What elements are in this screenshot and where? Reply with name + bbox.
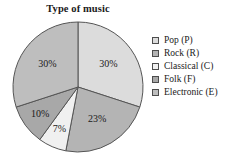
legend-item-label: Electronic (E) xyxy=(164,87,218,98)
pie-slice-value: 7% xyxy=(53,123,66,134)
pie-svg: 30%23%7%10%30% xyxy=(0,0,152,163)
pie-chart-figure: Type of music 30%23%7%10%30% Pop (P)Rock… xyxy=(0,0,234,163)
legend-item[interactable]: Classical (C) xyxy=(152,60,234,73)
legend-swatch-icon xyxy=(152,50,159,57)
pie-slice-value: 30% xyxy=(38,58,56,69)
legend-item-label: Rock (R) xyxy=(164,48,199,59)
legend-swatch-icon xyxy=(152,89,159,96)
pie-slice-value: 30% xyxy=(99,58,117,69)
legend-swatch-icon xyxy=(152,76,159,83)
legend-item[interactable]: Rock (R) xyxy=(152,47,234,60)
legend-item-label: Folk (F) xyxy=(164,74,195,85)
pie-slice-value: 23% xyxy=(88,113,106,124)
legend-swatch-icon xyxy=(152,63,159,70)
legend-item-label: Pop (P) xyxy=(164,35,193,46)
legend-item-label: Classical (C) xyxy=(164,61,213,72)
legend-item[interactable]: Pop (P) xyxy=(152,34,234,47)
pie-slices xyxy=(13,22,143,152)
legend-item[interactable]: Electronic (E) xyxy=(152,86,234,99)
legend-swatch-icon xyxy=(152,37,159,44)
chart-legend: Pop (P)Rock (R)Classical (C)Folk (F)Elec… xyxy=(152,34,234,99)
legend-item[interactable]: Folk (F) xyxy=(152,73,234,86)
pie-slice-value: 10% xyxy=(31,108,49,119)
pie-plot-area: 30%23%7%10%30% xyxy=(0,0,152,163)
